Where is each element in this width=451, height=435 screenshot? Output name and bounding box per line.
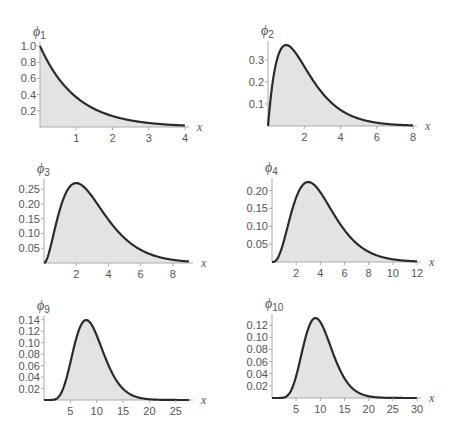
y-tick-label: 0.10 [247,220,268,232]
y-tick-label: 0.12 [19,325,40,337]
x-tick-label: 20 [363,403,375,415]
y-tick-label: 0.3 [249,54,264,66]
x-axis-label: x [196,120,203,134]
phi-subscript: 9 [44,304,50,315]
y-tick-label: 0.2 [249,76,264,88]
y-tick-label: 0.15 [247,202,268,214]
y-tick-label: 0.08 [19,348,40,360]
x-tick-label: 4 [317,267,323,279]
x-axis-label: x [200,256,207,270]
x-tick-label: 15 [117,405,129,417]
y-tick-label: 0.14 [19,314,40,326]
plot-panel-phi-4: 246810120.050.100.150.20xϕ4 [232,157,437,297]
area-fill [268,45,413,126]
y-tick-label: 0.20 [247,185,268,197]
y-tick-label: 1.0 [21,40,36,52]
x-tick-label: 15 [338,403,350,415]
x-tick-label: 25 [170,405,182,417]
area-fill [44,320,189,400]
x-tick-label: 10 [387,267,399,279]
y-tick-label: 0.04 [19,371,40,383]
x-tick-label: 25 [387,403,399,415]
area-fill [40,46,185,127]
y-tick-label: 0.04 [247,368,268,380]
x-tick-label: 6 [138,268,144,280]
y-tick-label: 0.20 [19,198,40,210]
y-axis-label-phi-1: ϕ1 [33,24,46,41]
x-tick-label: 5 [67,405,73,417]
x-tick-label: 5 [293,403,299,415]
y-tick-label: 0.06 [247,356,268,368]
y-tick-label: 0.05 [247,238,268,250]
y-tick-label: 0.10 [19,227,40,239]
y-tick-label: 0.2 [21,105,36,117]
plot-panel-phi-9: 5101520250.020.040.060.080.100.120.14xϕ9 [4,295,209,435]
y-tick-label: 0.25 [19,183,40,195]
y-tick-label: 0.08 [247,343,268,355]
y-axis-label-phi-4: ϕ4 [265,160,278,177]
plot-panel-phi-10: 510152025300.020.040.060.080.100.12xϕ10 [232,293,437,433]
y-tick-label: 0.06 [19,360,40,372]
x-tick-label: 6 [341,267,347,279]
y-axis-label-phi-3: ϕ3 [37,161,50,178]
plot-panel-phi-2: 24680.10.20.3xϕ2 [228,20,433,161]
x-tick-label: 8 [410,131,416,143]
x-axis-label: x [428,391,435,405]
x-tick-label: 30 [411,403,423,415]
y-tick-label: 0.12 [247,319,268,331]
x-tick-label: 8 [366,267,372,279]
x-tick-label: 3 [146,132,152,144]
x-tick-label: 4 [337,131,343,143]
y-tick-label: 0.15 [19,213,40,225]
x-tick-label: 6 [374,131,380,143]
x-tick-label: 10 [91,405,103,417]
y-axis-label-phi-9: ϕ9 [37,298,50,315]
y-tick-label: 0.02 [19,383,40,395]
x-tick-label: 4 [105,268,111,280]
x-axis-label: x [424,119,431,133]
y-tick-label: 0.8 [21,56,36,68]
phi-subscript: 3 [44,167,50,178]
phi-subscript: 4 [272,166,278,177]
x-tick-label: 2 [109,132,115,144]
x-tick-label: 2 [73,268,79,280]
x-tick-label: 20 [143,405,155,417]
y-tick-label: 0.02 [247,380,268,392]
y-tick-label: 0.10 [19,337,40,349]
x-tick-label: 4 [182,132,188,144]
y-tick-label: 0.4 [21,89,36,101]
y-tick-label: 0.05 [19,242,40,254]
y-tick-label: 0.1 [249,98,264,110]
area-fill [272,182,417,262]
plot-panel-phi-3: 24680.050.100.150.200.25xϕ3 [4,158,209,298]
x-tick-label: 12 [411,267,423,279]
x-tick-label: 2 [301,131,307,143]
x-axis-label: x [428,255,435,269]
x-axis-label: x [200,393,207,407]
x-tick-label: 8 [170,268,176,280]
phi-subscript: 10 [272,302,284,313]
y-tick-label: 0.10 [247,331,268,343]
x-tick-label: 10 [314,403,326,415]
y-axis-label-phi-10: ϕ10 [265,296,284,313]
phi-subscript: 1 [40,30,46,41]
x-tick-label: 2 [293,267,299,279]
y-tick-label: 0.6 [21,72,36,84]
y-axis-label-phi-2: ϕ2 [261,23,274,40]
plot-panel-phi-1: 12340.20.40.60.81.0xϕ1 [0,21,205,162]
phi-subscript: 2 [268,29,274,40]
x-tick-label: 1 [73,132,79,144]
